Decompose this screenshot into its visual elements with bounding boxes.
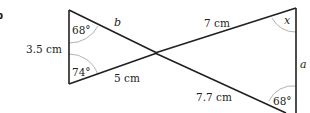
label-top-side-b: b [114, 16, 121, 29]
part-label: b [0, 10, 3, 21]
label-right-side-a: a [300, 58, 307, 71]
right-triangle-side-top [155, 8, 296, 53]
label-angle-left-bottom: 74° [72, 66, 91, 78]
label-right-bottom-side: 7.7 cm [196, 91, 232, 103]
bowtie-diagram: b 3.5 cm b 5 cm 68° 74° 7 cm x a 7.7 cm … [0, 0, 310, 113]
label-angle-left-top: 68° [72, 24, 91, 36]
label-angle-x: x [284, 14, 291, 27]
label-right-top-side: 7 cm [204, 17, 230, 29]
right-triangle-side-bottom [155, 53, 286, 113]
label-bottom-side: 5 cm [114, 72, 140, 84]
label-left-side: 3.5 cm [26, 43, 62, 55]
label-angle-right-bottom: 68° [273, 95, 292, 107]
